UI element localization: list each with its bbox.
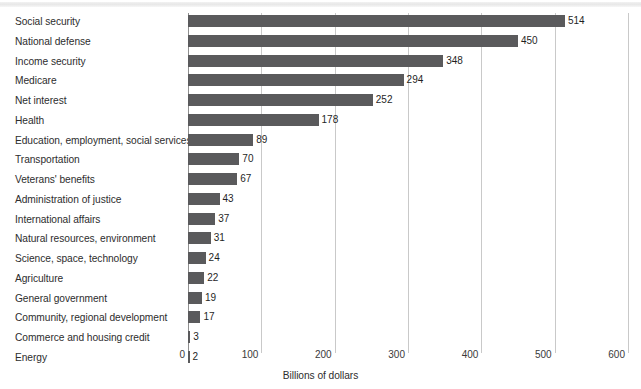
category-label: Transportation bbox=[15, 153, 80, 166]
category-label: Community, regional development bbox=[15, 311, 167, 324]
bar[interactable] bbox=[188, 153, 239, 165]
category-label: Net interest bbox=[15, 94, 67, 107]
chart-row: Income security348 bbox=[0, 53, 641, 73]
bar[interactable] bbox=[188, 114, 319, 126]
bar[interactable] bbox=[188, 331, 190, 343]
bar[interactable] bbox=[188, 55, 443, 67]
bar[interactable] bbox=[188, 173, 237, 185]
bar[interactable] bbox=[188, 272, 204, 284]
chart-row: Administration of justice43 bbox=[0, 191, 641, 211]
category-label: Agriculture bbox=[15, 272, 63, 285]
bar-value-label: 294 bbox=[407, 74, 424, 86]
category-label: Health bbox=[15, 114, 44, 127]
chart-row: Veterans' benefits67 bbox=[0, 171, 641, 191]
category-label: Veterans' benefits bbox=[15, 173, 95, 186]
bar-value-label: 348 bbox=[446, 55, 463, 67]
category-label: Medicare bbox=[15, 74, 57, 87]
bar[interactable] bbox=[188, 252, 206, 264]
bar[interactable] bbox=[188, 311, 200, 323]
bar-value-label: 31 bbox=[214, 232, 225, 244]
chart-row: National defense450 bbox=[0, 33, 641, 53]
bar[interactable] bbox=[188, 232, 211, 244]
x-axis-title: Billions of dollars bbox=[0, 370, 641, 381]
bar-value-label: 17 bbox=[203, 311, 214, 323]
bar-value-label: 70 bbox=[242, 153, 253, 165]
category-label: Education, employment, social services bbox=[15, 134, 191, 147]
category-label: General government bbox=[15, 292, 107, 305]
chart-row: Commerce and housing credit3 bbox=[0, 329, 641, 349]
chart-row: Natural resources, environment31 bbox=[0, 230, 641, 250]
category-label: Social security bbox=[15, 15, 80, 28]
bar-value-label: 37 bbox=[218, 213, 229, 225]
category-label: Energy bbox=[15, 351, 47, 364]
chart-row: General government19 bbox=[0, 290, 641, 310]
bar[interactable] bbox=[188, 193, 220, 205]
category-label: Income security bbox=[15, 55, 86, 68]
bar-value-label: 19 bbox=[205, 292, 216, 304]
bar[interactable] bbox=[188, 134, 253, 146]
chart-row: Transportation70 bbox=[0, 151, 641, 171]
category-label: National defense bbox=[15, 35, 91, 48]
bar[interactable] bbox=[188, 213, 215, 225]
category-label: Administration of justice bbox=[15, 193, 121, 206]
bar-value-label: 89 bbox=[256, 134, 267, 146]
bar-value-label: 178 bbox=[322, 114, 339, 126]
chart-row: Health178 bbox=[0, 112, 641, 132]
chart-row: Education, employment, social services89 bbox=[0, 132, 641, 152]
category-label: Natural resources, environment bbox=[15, 232, 156, 245]
chart-row: Net interest252 bbox=[0, 92, 641, 112]
bar[interactable] bbox=[188, 15, 565, 27]
plot-area: 0100200300400500600Social security514Nat… bbox=[0, 0, 641, 389]
chart-row: Energy2 bbox=[0, 349, 641, 369]
chart-row: Science, space, technology24 bbox=[0, 250, 641, 270]
chart-row: Agriculture22 bbox=[0, 270, 641, 290]
bar-value-label: 2 bbox=[193, 351, 199, 363]
bar-value-label: 24 bbox=[209, 252, 220, 264]
category-label: International affairs bbox=[15, 213, 100, 226]
bar[interactable] bbox=[188, 351, 190, 363]
bar[interactable] bbox=[188, 35, 518, 47]
bar-value-label: 252 bbox=[376, 94, 393, 106]
bar-value-label: 22 bbox=[207, 272, 218, 284]
bar-value-label: 514 bbox=[568, 15, 585, 27]
bar-value-label: 450 bbox=[521, 35, 538, 47]
bar[interactable] bbox=[188, 74, 404, 86]
bar-value-label: 3 bbox=[193, 331, 199, 343]
chart-row: International affairs37 bbox=[0, 211, 641, 231]
category-label: Commerce and housing credit bbox=[15, 331, 150, 344]
chart-row: Community, regional development17 bbox=[0, 309, 641, 329]
chart-row: Medicare294 bbox=[0, 72, 641, 92]
chart-row: Social security514 bbox=[0, 13, 641, 33]
bar[interactable] bbox=[188, 292, 202, 304]
bar-chart: 0100200300400500600Social security514Nat… bbox=[0, 0, 641, 389]
category-label: Science, space, technology bbox=[15, 252, 138, 265]
bar[interactable] bbox=[188, 94, 373, 106]
bar-value-label: 43 bbox=[223, 193, 234, 205]
bar-value-label: 67 bbox=[240, 173, 251, 185]
